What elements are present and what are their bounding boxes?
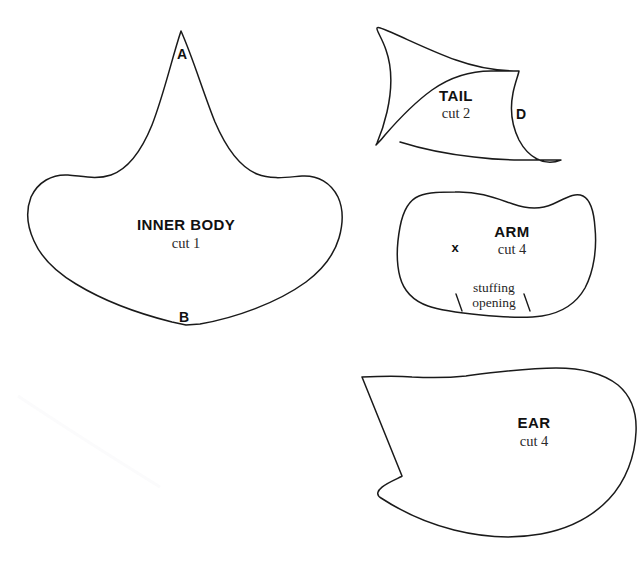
- inner-body-outline: [28, 31, 342, 325]
- arm-outline: [397, 192, 595, 318]
- pattern-sheet: INNER BODY cut 1 A B TAIL cut 2 D ARM cu…: [0, 0, 638, 569]
- tail-outline: [376, 27, 561, 162]
- ear-outline: [362, 368, 636, 537]
- faint-scan-artifact: [18, 396, 160, 487]
- pattern-shapes-canvas: [0, 0, 638, 569]
